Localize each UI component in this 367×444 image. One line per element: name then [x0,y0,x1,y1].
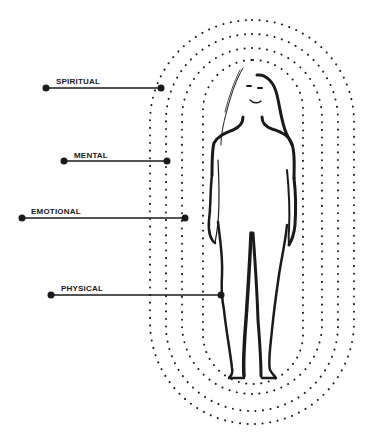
aura-diagram-canvas [0,0,367,444]
leader-endpoint-dot-icon [218,292,225,299]
leader-endpoint-dot-icon [48,292,55,299]
aura-diagram: SPIRITUAL MENTAL EMOTIONAL PHYSICAL [0,0,367,444]
leader-endpoint-dot-icon [182,215,189,222]
aura-rings [150,20,354,424]
leader-endpoint-dot-icon [158,85,165,92]
label-emotional: EMOTIONAL [31,207,81,216]
leader-endpoint-dot-icon [43,85,50,92]
aura-ring-outer [150,20,354,424]
aura-ring-second [166,34,338,411]
layer-leader-lines [19,85,225,299]
aura-ring-third [182,48,322,394]
leader-endpoint-dot-icon [19,215,26,222]
leader-endpoint-dot-icon [164,158,171,165]
leader-endpoint-dot-icon [61,158,68,165]
human-figure-icon [209,68,296,378]
label-spiritual: SPIRITUAL [56,77,100,86]
label-physical: PHYSICAL [61,284,103,293]
label-mental: MENTAL [74,151,108,160]
